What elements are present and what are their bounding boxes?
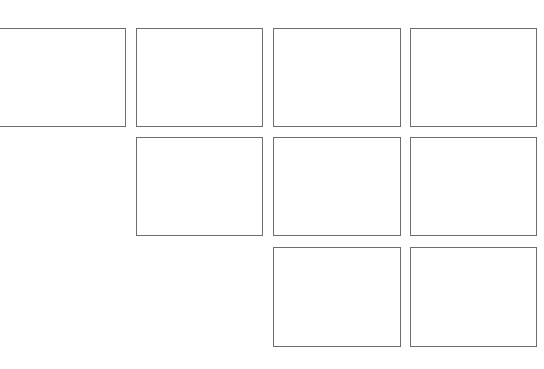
empty-box bbox=[136, 28, 263, 127]
empty-box bbox=[273, 137, 401, 236]
empty-box bbox=[410, 247, 537, 347]
empty-box bbox=[273, 247, 401, 347]
empty-box bbox=[136, 137, 263, 236]
empty-box-grid bbox=[0, 0, 544, 369]
empty-box bbox=[0, 28, 126, 127]
empty-box bbox=[273, 28, 401, 127]
empty-box bbox=[410, 28, 537, 127]
empty-box bbox=[410, 137, 537, 236]
